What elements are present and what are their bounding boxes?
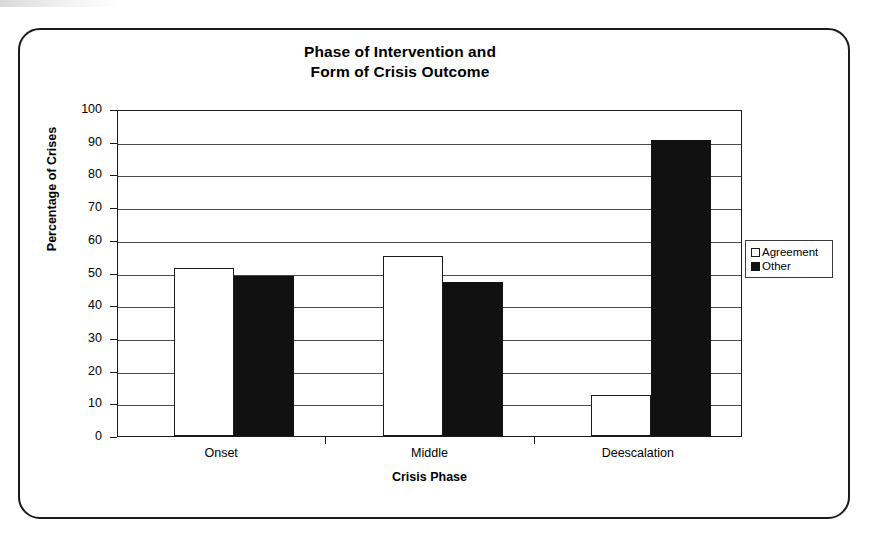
x-axis-label-onset: Onset bbox=[117, 446, 325, 460]
legend-item-other[interactable]: Other bbox=[751, 259, 828, 273]
y-axis-tick-label: 70 bbox=[62, 200, 102, 214]
y-axis-tick bbox=[110, 404, 117, 405]
bar-deescalation-other bbox=[651, 140, 711, 436]
gridline bbox=[118, 242, 741, 243]
y-axis-tick bbox=[110, 143, 117, 144]
legend-label-agreement: Agreement bbox=[762, 245, 818, 259]
y-axis-tick bbox=[110, 274, 117, 275]
y-axis-tick-label: 90 bbox=[62, 135, 102, 149]
y-axis-tick-label: 30 bbox=[62, 331, 102, 345]
x-axis-category-separator bbox=[325, 437, 326, 444]
filled-square-icon bbox=[751, 262, 760, 271]
x-axis-label-middle: Middle bbox=[325, 446, 533, 460]
y-axis-tick-label: 60 bbox=[62, 233, 102, 247]
bar-deescalation-agreement bbox=[591, 395, 651, 436]
x-axis-title: Crisis Phase bbox=[117, 470, 742, 484]
y-axis-tick-label: 100 bbox=[62, 102, 102, 116]
legend-item-agreement[interactable]: Agreement bbox=[751, 245, 828, 259]
y-axis-tick-label: 10 bbox=[62, 396, 102, 410]
chart-title-line-2: Form of Crisis Outcome bbox=[180, 62, 620, 82]
x-axis-label-deescalation: Deescalation bbox=[534, 446, 742, 460]
chart-title: Phase of Intervention and Form of Crisis… bbox=[180, 42, 620, 82]
legend-label-other: Other bbox=[762, 259, 791, 273]
y-axis-tick bbox=[110, 241, 117, 242]
chart-legend[interactable]: Agreement Other bbox=[745, 240, 833, 278]
bar-middle-agreement bbox=[383, 256, 443, 436]
y-axis-tick-label: 80 bbox=[62, 167, 102, 181]
scan-edge-smudge bbox=[0, 0, 120, 7]
bar-onset-other bbox=[234, 276, 294, 436]
y-axis-tick bbox=[110, 175, 117, 176]
y-axis-tick-label: 20 bbox=[62, 364, 102, 378]
y-axis-tick bbox=[110, 372, 117, 373]
gridline bbox=[118, 144, 741, 145]
y-axis-tick bbox=[110, 110, 117, 111]
y-axis-tick-label: 40 bbox=[62, 298, 102, 312]
y-axis-tick-label: 50 bbox=[62, 266, 102, 280]
plot-area bbox=[117, 110, 742, 437]
y-axis-tick bbox=[110, 306, 117, 307]
y-axis-tick bbox=[110, 339, 117, 340]
x-axis-category-separator bbox=[534, 437, 535, 444]
gridline bbox=[118, 209, 741, 210]
gridline bbox=[118, 176, 741, 177]
bar-onset-agreement bbox=[174, 268, 234, 436]
y-axis-tick-label: 0 bbox=[62, 429, 102, 443]
y-axis-tick bbox=[110, 437, 117, 438]
chart-title-line-1: Phase of Intervention and bbox=[180, 42, 620, 62]
bar-middle-other bbox=[443, 282, 503, 436]
y-axis-tick bbox=[110, 208, 117, 209]
y-axis-title: Percentage of Crises bbox=[45, 94, 59, 284]
hollow-square-icon bbox=[751, 248, 760, 257]
